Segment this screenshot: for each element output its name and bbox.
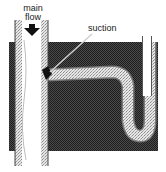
main-flow-label: main flow (16, 4, 50, 22)
main-flow-label-line2: flow (16, 13, 50, 22)
siphon-diagram: main flow suction (0, 0, 166, 172)
suction-label: suction (88, 24, 128, 33)
diagram-canvas (0, 0, 166, 172)
u-trap (143, 36, 152, 96)
main-pipe (15, 20, 48, 166)
